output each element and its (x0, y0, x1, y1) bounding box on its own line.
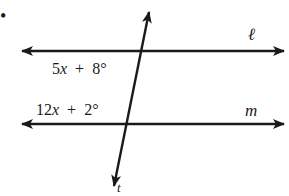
line-l-label: ℓ (248, 25, 255, 44)
transversal-t-label: t (117, 180, 121, 195)
parallel-lines-transversal-diagram: • ℓ m t 5x+8° 12x+2° (0, 0, 289, 196)
angle-label-bottom: 12x+2° (36, 101, 99, 118)
line-m-label: m (245, 101, 257, 120)
angle-label-top: 5x+8° (52, 60, 107, 77)
transversal-t (114, 12, 149, 186)
problem-bullet: • (0, 6, 6, 26)
